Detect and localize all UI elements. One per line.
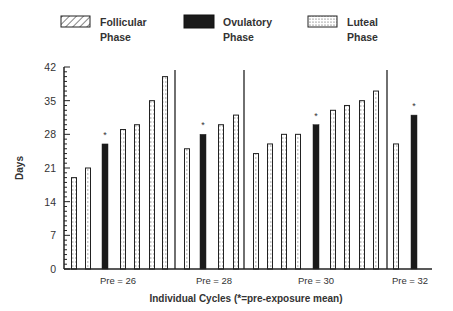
legend-ovulatory-line2: Phase <box>223 31 254 43</box>
bar-luteal <box>234 115 239 269</box>
legend-item-ovulatory: Ovulatory Phase <box>184 15 272 43</box>
legend-luteal-line2: Phase <box>347 31 378 43</box>
legend-ovulatory-line1: Ovulatory <box>223 16 272 28</box>
y-tick-label: 42 <box>44 61 56 73</box>
bar-ovulatory <box>411 115 417 269</box>
bar-luteal <box>360 101 365 269</box>
follicular-swatch-icon <box>61 16 90 27</box>
ovulatory-swatch-icon <box>184 15 214 28</box>
legend-luteal-line1: Luteal <box>347 16 378 28</box>
y-axis-title: Days <box>14 156 25 180</box>
y-tick-label: 7 <box>50 229 56 241</box>
group-label: Pre = 26 <box>100 275 136 286</box>
bar-luteal <box>268 144 273 269</box>
group-label: Pre = 30 <box>298 275 334 286</box>
bars: **** <box>72 70 418 269</box>
y-axis: 071421283542 <box>44 61 70 275</box>
bar-luteal <box>345 105 350 269</box>
pre-exposure-mean-marker: * <box>314 111 318 121</box>
y-tick-label: 28 <box>44 128 56 140</box>
bar-luteal <box>150 101 155 269</box>
bar-luteal <box>394 144 399 269</box>
legend-item-follicular: Follicular Phase <box>61 16 147 43</box>
x-axis-title: Individual Cycles (*=pre-exposure mean) <box>149 293 342 304</box>
pre-exposure-mean-marker: * <box>201 120 205 130</box>
bar-luteal <box>185 149 190 269</box>
pre-exposure-mean-marker: * <box>103 130 107 140</box>
pre-exposure-mean-marker: * <box>412 101 416 111</box>
bar-luteal <box>135 125 140 269</box>
bar-luteal <box>282 134 287 269</box>
legend-follicular-line2: Phase <box>100 31 131 43</box>
y-tick-label: 35 <box>44 95 56 107</box>
bar-luteal <box>254 154 259 269</box>
bar-luteal <box>72 178 77 269</box>
bar-luteal <box>219 125 224 269</box>
luteal-swatch-icon <box>308 16 337 27</box>
bar-ovulatory <box>102 144 108 269</box>
bar-ovulatory <box>313 125 319 269</box>
legend-item-luteal: Luteal Phase <box>308 16 378 43</box>
bar-luteal <box>296 134 301 269</box>
bar-luteal <box>121 130 126 269</box>
legend-follicular-line1: Follicular <box>100 16 147 28</box>
group-label: Pre = 28 <box>196 275 232 286</box>
bar-luteal <box>163 77 168 269</box>
y-tick-label: 14 <box>44 196 56 208</box>
chart: Follicular Phase Ovulatory Phase Luteal … <box>0 0 453 311</box>
y-tick-label: 21 <box>44 162 56 174</box>
legend: Follicular Phase Ovulatory Phase Luteal … <box>61 15 378 43</box>
group-label: Pre = 32 <box>392 275 428 286</box>
bar-luteal <box>86 168 91 269</box>
bar-ovulatory <box>200 134 206 269</box>
bar-luteal <box>331 110 336 269</box>
group-labels: Pre = 26Pre = 28Pre = 30Pre = 32 <box>100 275 428 286</box>
bar-luteal <box>374 91 379 269</box>
y-tick-label: 0 <box>50 263 56 275</box>
